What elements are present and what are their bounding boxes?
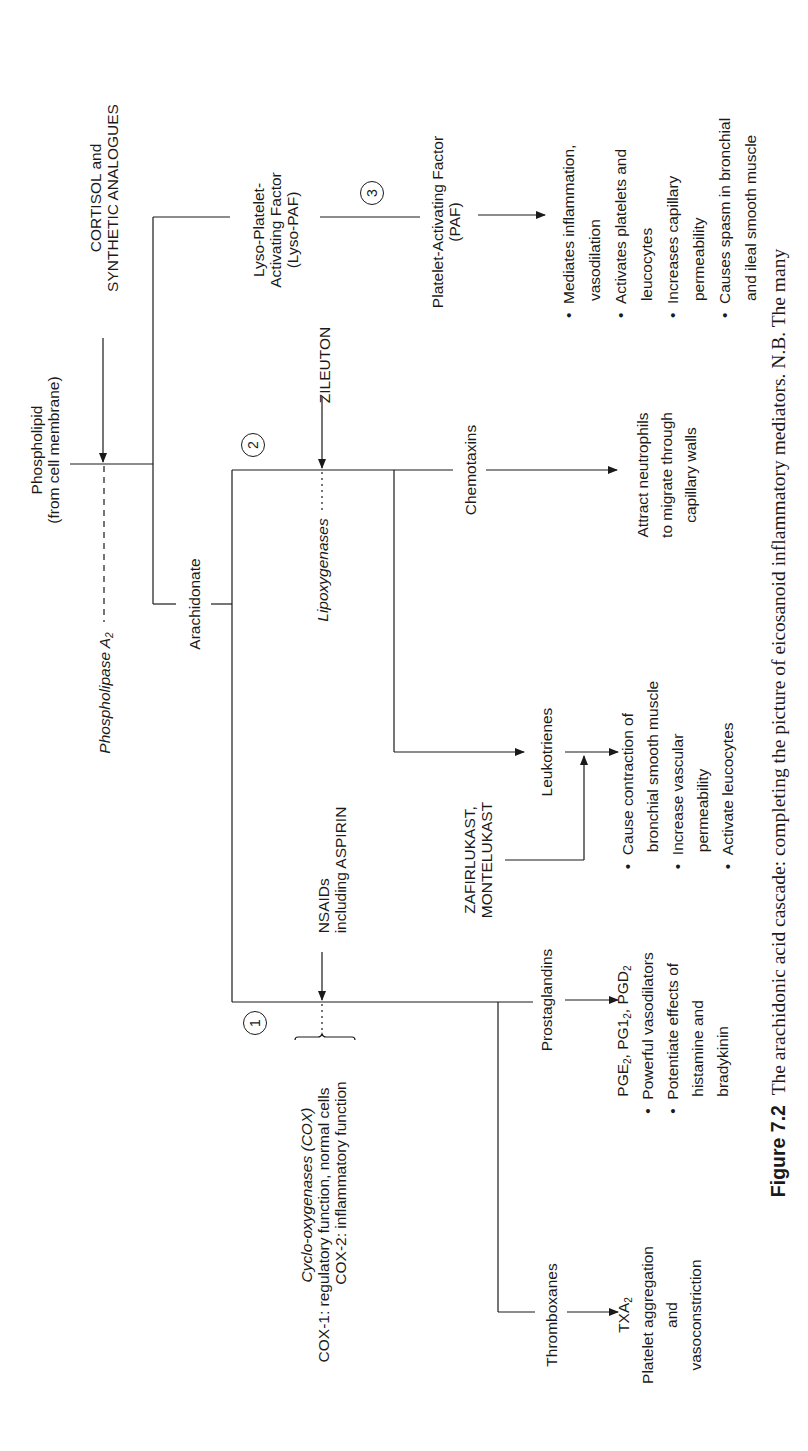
chemotaxins-effect-line-3: capillary walls <box>679 412 703 538</box>
paf-effect-text: Activates platelets and <box>612 149 629 304</box>
leukotrienes-label: Leukotrienes <box>538 708 555 797</box>
arachidonate-label: Arachidonate <box>186 558 203 649</box>
bullet: • <box>719 864 736 869</box>
marker-2: 2 <box>241 433 265 457</box>
nsaids-label: NSAIDs including ASPIRIN <box>315 807 349 934</box>
cox-label: Cyclo-oxygenases (COX) <box>298 1108 315 1283</box>
cortisol-label: CORTISOL and SYNTHETIC ANALOGUES <box>87 104 121 292</box>
prostaglandins-effects: PGE2, PG12, PGD2 • Powerful vasodilators… <box>610 952 735 1113</box>
paf-effect-3: • Increases capillary <box>660 118 686 318</box>
paf-effect-4: • Causes spasm in bronchial <box>712 118 738 318</box>
lyso-paf-line-1: Lyso-Platelet- <box>250 172 267 287</box>
txa-subscript: 2 <box>623 1297 634 1303</box>
leukotrienes-effect-1: • Cause contraction of <box>615 681 640 869</box>
lyso-paf-label: Lyso-Platelet- Activating Factor (Lyso-P… <box>250 172 301 287</box>
bullet: • <box>716 313 733 318</box>
thromboxanes-effect-line-1: Platelet aggregation <box>636 1246 660 1384</box>
paf-effect-2-cont: leucocytes <box>634 118 660 318</box>
leukotrienes-effect-1-cont: bronchial smooth muscle <box>640 681 665 869</box>
paf-effect-4-cont: and ileal smooth muscle <box>738 118 764 318</box>
leukotrienes-effect-text: Activate leucocytes <box>719 722 736 855</box>
cox2-label: COX-2: inflammatory function <box>332 1081 349 1284</box>
prostaglandins-effect-2: • Potentiate effects of <box>660 952 685 1113</box>
nsaids-line-2: including ASPIRIN <box>332 807 349 934</box>
paf-effect-2: • Activates platelets and <box>608 118 634 318</box>
prostaglandins-effect-text: Potentiate effects of <box>664 963 681 1100</box>
pge-subscript: 2 <box>622 1058 633 1064</box>
figure-label: Figure 7.2 <box>767 1105 789 1197</box>
phospholipase-subscript: 2 <box>104 632 115 638</box>
bullet: • <box>639 1108 656 1113</box>
zileuton-label: ZILEUTON <box>316 327 333 403</box>
bullet: • <box>664 1108 681 1113</box>
pgd-text: , PGD <box>614 971 631 1013</box>
prostaglandins-label: Prostaglandins <box>538 949 555 1052</box>
leukotrienes-effect-3: • Activate leucocytes <box>715 681 740 869</box>
thromboxanes-effect-line-3: vasoconstriction <box>684 1246 708 1384</box>
bullet: • <box>669 864 686 869</box>
chemotaxins-effect-line-2: to migrate through <box>655 412 679 538</box>
phospholipase-label: Phospholipase A2 <box>96 632 113 753</box>
pge-text: PGE <box>614 1064 631 1097</box>
paf-label: Platelet-Activating Factor (PAF) <box>429 136 463 308</box>
bullet: • <box>619 864 636 869</box>
bullet: • <box>664 313 681 318</box>
thromboxanes-effects: TXA2 Platelet aggregation and vasoconstr… <box>612 1246 708 1384</box>
phospholipid-label: Phospholipid (from cell membrane) <box>28 376 62 523</box>
cortisol-line-1: CORTISOL and <box>87 104 104 292</box>
pgd-subscript: 2 <box>622 965 633 971</box>
phospholipid-title: Phospholipid <box>28 376 45 523</box>
marker-1: 1 <box>243 1011 267 1035</box>
chemotaxins-effects: Attract neutrophils to migrate through c… <box>631 412 703 538</box>
prostaglandins-effect-2-cont: histamine and <box>685 952 710 1113</box>
zafirlukast-line-1: ZAFIRLUKAST, <box>461 802 478 918</box>
leukotrienes-effect-text: Cause contraction of <box>619 713 636 855</box>
leukotrienes-effect-2-cont: permeability <box>690 681 715 869</box>
marker-3: 3 <box>360 181 384 205</box>
cortisol-line-2: SYNTHETIC ANALOGUES <box>104 104 121 292</box>
chemotaxins-label: Chemotaxins <box>462 425 479 515</box>
txa-text: TXA <box>615 1303 632 1333</box>
figure-caption: Figure 7.2 The arachidonic acid cascade:… <box>767 249 790 1197</box>
leukotrienes-effect-2: • Increase vascular <box>665 681 690 869</box>
chemotaxins-effect-line-1: Attract neutrophils <box>631 412 655 538</box>
pg1-subscript: 2 <box>622 1013 633 1019</box>
zafirlukast-label: ZAFIRLUKAST, MONTELUKAST <box>461 802 495 918</box>
prostaglandins-effect-1: • Powerful vasodilators <box>635 952 660 1113</box>
bullet: • <box>560 313 577 318</box>
pg1-text: , PG1 <box>614 1019 631 1059</box>
cox1-label: COX-1: regulatory function, normal cells <box>315 1088 332 1363</box>
leukotrienes-effects: • Cause contraction of bronchial smooth … <box>615 681 740 869</box>
prostaglandins-effect-text: Powerful vasodilators <box>639 952 656 1099</box>
figure-caption-text: The arachidonic acid cascade: completing… <box>768 249 789 1096</box>
zafirlukast-line-2: MONTELUKAST <box>478 802 495 918</box>
paf-effect-text: Increases capillary <box>664 176 681 304</box>
leukotrienes-effect-text: Increase vascular <box>669 734 686 855</box>
paf-line-2: (PAF) <box>446 136 463 308</box>
thromboxanes-effect-line-2: and <box>660 1246 684 1384</box>
bullet: • <box>612 313 629 318</box>
paf-effect-text: Causes spasm in bronchial <box>716 118 733 304</box>
paf-effect-1-cont: vasodilation <box>582 118 608 318</box>
nsaids-line-1: NSAIDs <box>315 807 332 934</box>
paf-line-1: Platelet-Activating Factor <box>429 136 446 308</box>
paf-effect-3-cont: permeability <box>686 118 712 318</box>
phospholipase-text: Phospholipase A <box>96 638 113 754</box>
lyso-paf-line-2: Activating Factor <box>267 172 284 287</box>
paf-effect-1: • Mediates inflammation, <box>556 118 582 318</box>
prostaglandins-head: PGE2, PG12, PGD2 <box>610 952 635 1113</box>
paf-effect-text: Mediates inflammation, <box>560 145 577 304</box>
phospholipid-source: (from cell membrane) <box>45 376 62 523</box>
lyso-paf-line-3: (Lyso-PAF) <box>284 172 301 287</box>
txa-head: TXA2 <box>612 1246 636 1384</box>
paf-effects: • Mediates inflammation, vasodilation • … <box>556 118 764 318</box>
prostaglandins-effect-2-cont2: bradykinin <box>710 952 735 1113</box>
thromboxanes-label: Thromboxanes <box>543 1263 560 1366</box>
lipoxygenases-label: Lipoxygenases <box>314 518 331 621</box>
